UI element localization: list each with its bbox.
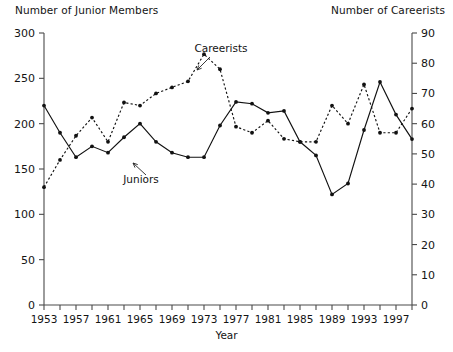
right-y-axis: 0102030405060708090: [412, 27, 435, 312]
data-point: [234, 125, 238, 129]
left-y-axis: 050100150200250300: [14, 27, 44, 312]
data-point: [314, 140, 318, 144]
y2-tick-label: 10: [421, 269, 435, 282]
y-tick-label: 50: [21, 254, 35, 267]
data-point: [186, 155, 190, 159]
data-point: [138, 122, 142, 126]
data-point: [170, 86, 174, 90]
x-tick-label: 1989: [319, 313, 346, 325]
data-point: [106, 140, 110, 144]
data-point: [282, 137, 286, 141]
juniors-annotation: Juniors: [122, 173, 159, 185]
y-tick-label: 100: [14, 208, 35, 221]
data-point: [74, 155, 78, 159]
data-point: [90, 116, 94, 120]
data-point: [362, 128, 366, 132]
line-chart-plot: 050100150200250300 0102030405060708090 1…: [0, 0, 453, 352]
x-tick-label: 1969: [159, 313, 186, 325]
x-axis-label: Year: [0, 329, 453, 341]
y2-tick-label: 40: [421, 178, 435, 191]
data-point: [250, 102, 254, 106]
data-point: [234, 100, 238, 104]
data-point: [250, 131, 254, 135]
data-point: [90, 144, 94, 148]
y-tick-label: 250: [14, 72, 35, 85]
x-tick-label: 1965: [127, 313, 154, 325]
y2-tick-label: 80: [421, 57, 435, 70]
data-point: [346, 182, 350, 186]
y-tick-label: 0: [28, 299, 35, 312]
careerists-annotation: Careerists: [194, 42, 247, 54]
y2-tick-label: 50: [421, 148, 435, 161]
data-point: [42, 104, 46, 108]
y-tick-label: 300: [14, 27, 35, 40]
y2-tick-label: 60: [421, 118, 435, 131]
data-point: [122, 135, 126, 139]
y2-tick-label: 0: [421, 299, 428, 312]
y2-tick-label: 20: [421, 239, 435, 252]
data-point: [346, 122, 350, 126]
x-tick-label: 1973: [191, 313, 218, 325]
data-point: [298, 140, 302, 144]
data-series-group: [42, 52, 414, 196]
x-tick-label: 1993: [351, 313, 378, 325]
data-point: [266, 111, 270, 115]
data-point: [58, 158, 62, 162]
data-point: [122, 101, 126, 105]
data-point: [154, 92, 158, 96]
data-point: [154, 140, 158, 144]
left-axis-title: Number of Junior Members: [15, 4, 158, 16]
y-tick-label: 150: [14, 163, 35, 176]
data-point: [378, 131, 382, 135]
y2-tick-label: 90: [421, 27, 435, 40]
x-tick-label: 1977: [223, 313, 250, 325]
data-point: [362, 82, 366, 86]
data-point: [218, 67, 222, 71]
series-line-juniors: [44, 82, 412, 194]
x-tick-label: 1985: [287, 313, 314, 325]
data-point: [378, 80, 382, 84]
y-tick-label: 200: [14, 118, 35, 131]
x-axis: 1953195719611965196919731977198119851989…: [31, 305, 412, 325]
x-tick-label: 1981: [255, 313, 282, 325]
data-point: [282, 109, 286, 113]
data-point: [186, 79, 190, 83]
x-tick-label: 1957: [63, 313, 90, 325]
data-point: [394, 113, 398, 117]
x-tick-label: 1961: [95, 313, 122, 325]
x-tick-label: 1997: [383, 313, 410, 325]
data-point: [42, 185, 46, 189]
data-point: [202, 155, 206, 159]
data-point: [330, 192, 334, 196]
data-point: [218, 124, 222, 128]
right-axis-title: Number of Careerists: [331, 4, 445, 16]
series-line-careerists: [44, 54, 412, 187]
data-point: [266, 119, 270, 123]
y2-tick-label: 30: [421, 208, 435, 221]
data-point: [410, 137, 414, 141]
x-tick-label: 1953: [31, 313, 58, 325]
data-point: [394, 131, 398, 135]
y2-tick-label: 70: [421, 87, 435, 100]
data-point: [170, 151, 174, 155]
data-point: [330, 104, 334, 108]
data-point: [74, 134, 78, 138]
chart-container: Number of Junior Members Number of Caree…: [0, 0, 453, 352]
data-point: [410, 107, 414, 111]
data-point: [138, 104, 142, 108]
data-point: [314, 154, 318, 158]
data-point: [58, 131, 62, 135]
data-point: [106, 151, 110, 155]
